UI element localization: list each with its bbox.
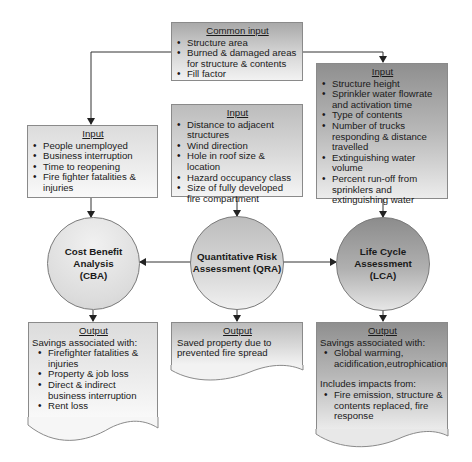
- cba-node-label: Cost Benefit Analysis (CBA): [59, 246, 129, 282]
- common-input-title: Common input: [177, 26, 298, 37]
- list-item: Extinguishing water volume: [322, 153, 443, 174]
- qra-output-text: Saved property due to prevented fire spr…: [177, 338, 275, 359]
- list-item: Global warming, acidification,eutrophica…: [324, 348, 443, 369]
- cba-node: Cost Benefit Analysis (CBA): [47, 217, 140, 310]
- list-item: Firefighter fatalities & injuries: [38, 348, 153, 369]
- lca-input-box: Input Structure height Sprinkler water f…: [316, 63, 448, 199]
- lca-input-title: Input: [322, 67, 443, 78]
- list-item: Sprinkler water flowrate and activation …: [322, 89, 443, 110]
- list-item: Distance to adjacent structures: [177, 120, 298, 141]
- cba-output-title: Output: [34, 326, 153, 337]
- common-input-list: Structure area Burned & damaged areas fo…: [177, 38, 298, 80]
- list-item: Burned & damaged areas for structure & c…: [177, 48, 298, 69]
- cba-output-box: Output Savings associated with: Firefigh…: [28, 322, 158, 418]
- list-item: Direct & indirect business interruption: [38, 380, 153, 401]
- list-item: Hole in roof size & location: [177, 151, 298, 172]
- lca-output-list2: Fire emission, structure & contents repl…: [324, 390, 443, 422]
- list-item: Percent run-off from sprinklers and exti…: [322, 174, 443, 206]
- qra-output-box: Output Saved property due to prevented f…: [171, 322, 303, 366]
- lca-output-list: Global warming, acidification,eutrophica…: [324, 348, 443, 369]
- common-input-box: Common input Structure area Burned & dam…: [171, 22, 303, 81]
- lca-node-label: Life Cycle Assessment (LCA): [340, 246, 426, 282]
- cba-output-list: Firefighter fatalities & injuries Proper…: [38, 348, 153, 412]
- list-item: Number of trucks responding & distance t…: [322, 121, 443, 153]
- cba-input-list: People unemployed Business interruption …: [33, 141, 153, 194]
- qra-input-box: Input Distance to adjacent structures Wi…: [171, 104, 303, 197]
- lca-output-box: Output Savings associated with: Global w…: [316, 322, 448, 430]
- list-item: Fill factor: [177, 69, 298, 80]
- list-item: Fire emission, structure & contents repl…: [324, 390, 443, 422]
- lca-output-title: Output: [322, 326, 443, 337]
- cba-input-box: Input People unemployed Business interru…: [27, 125, 158, 198]
- lca-input-list: Structure height Sprinkler water flowrat…: [322, 79, 443, 206]
- qra-node-label: Quantitative Risk Assessment (QRA): [192, 251, 282, 275]
- lca-node: Life Cycle Assessment (LCA): [336, 217, 430, 311]
- list-item: Size of fully developed fire compartment: [177, 183, 298, 204]
- list-item: Rent loss: [38, 401, 153, 412]
- cba-input-title: Input: [33, 129, 153, 140]
- qra-node: Quantitative Risk Assessment (QRA): [190, 216, 284, 310]
- qra-input-title: Input: [177, 108, 298, 119]
- qra-input-list: Distance to adjacent structures Wind dir…: [177, 120, 298, 205]
- list-item: Fire fighter fatalities & injuries: [33, 172, 153, 193]
- qra-output-title: Output: [177, 326, 298, 337]
